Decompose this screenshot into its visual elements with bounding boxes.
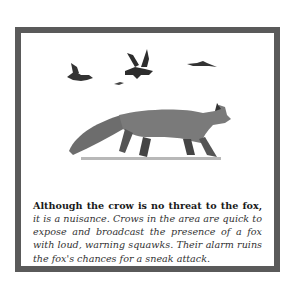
fox-and-crows-illustration bbox=[21, 33, 274, 183]
fox-icon bbox=[69, 103, 231, 160]
caption-italic-body: it is a nuisance. Crows in the area are … bbox=[33, 213, 262, 264]
crow-left-icon bbox=[67, 63, 93, 81]
figure-caption: Although the crow is no threat to the fo… bbox=[33, 199, 262, 265]
crow-right-icon bbox=[187, 61, 217, 67]
figure-frame: Although the crow is no threat to the fo… bbox=[15, 27, 280, 272]
caption-bold-lead: Although the crow is no threat to the fo… bbox=[33, 200, 262, 211]
crow-center-icon bbox=[125, 49, 153, 79]
crow-small-icon bbox=[114, 82, 124, 85]
